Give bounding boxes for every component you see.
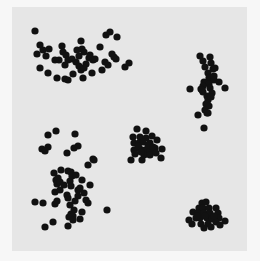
data-point xyxy=(64,222,71,229)
data-point xyxy=(69,216,76,223)
data-point xyxy=(36,64,43,71)
data-point xyxy=(71,130,78,137)
data-point xyxy=(200,224,207,231)
data-point xyxy=(206,53,213,60)
data-point xyxy=(78,176,85,183)
data-point xyxy=(31,27,38,34)
data-point xyxy=(153,136,160,143)
data-point xyxy=(42,52,49,59)
data-point xyxy=(63,149,70,156)
data-point xyxy=(106,28,113,35)
data-point xyxy=(142,127,149,134)
data-point xyxy=(91,55,98,62)
data-point xyxy=(207,93,214,100)
data-point xyxy=(44,69,51,76)
data-point xyxy=(53,197,60,204)
data-point xyxy=(125,59,132,66)
data-point xyxy=(89,155,96,162)
data-point xyxy=(127,156,134,163)
data-point xyxy=(133,125,140,132)
data-point xyxy=(44,131,51,138)
data-point xyxy=(78,208,85,215)
data-point xyxy=(53,74,60,81)
data-point xyxy=(31,198,38,205)
data-point xyxy=(158,145,165,152)
data-point xyxy=(84,199,91,206)
data-point xyxy=(77,37,84,44)
data-point xyxy=(96,43,103,50)
data-point xyxy=(137,148,144,155)
data-point xyxy=(33,50,40,57)
data-point xyxy=(216,221,223,228)
data-point xyxy=(71,197,78,204)
data-point xyxy=(113,33,120,40)
data-point xyxy=(129,133,136,140)
data-point xyxy=(98,66,105,73)
data-point xyxy=(103,206,110,213)
data-point xyxy=(67,182,74,189)
data-point xyxy=(138,156,145,163)
data-point xyxy=(215,78,222,85)
data-point xyxy=(186,85,193,92)
data-point xyxy=(41,223,48,230)
data-point xyxy=(210,212,217,219)
data-point xyxy=(221,84,228,91)
data-point xyxy=(56,186,63,193)
data-point xyxy=(193,212,200,219)
data-point xyxy=(45,45,52,52)
data-point xyxy=(88,69,95,76)
data-point xyxy=(86,181,93,188)
data-point xyxy=(200,124,207,131)
data-point xyxy=(101,58,108,65)
data-point xyxy=(79,74,86,81)
data-point xyxy=(41,147,48,154)
data-point xyxy=(76,215,83,222)
data-point xyxy=(152,149,159,156)
data-point xyxy=(203,109,210,116)
data-point xyxy=(112,55,119,62)
data-point xyxy=(70,144,77,151)
data-point xyxy=(210,72,217,79)
data-point xyxy=(64,76,71,83)
data-point xyxy=(211,64,218,71)
data-point xyxy=(49,218,56,225)
data-point xyxy=(69,70,76,77)
data-point xyxy=(84,161,91,168)
data-point xyxy=(58,42,65,49)
data-point xyxy=(52,127,59,134)
data-point xyxy=(201,212,208,219)
data-point xyxy=(39,199,46,206)
data-point xyxy=(64,194,71,201)
data-point xyxy=(194,111,201,118)
data-point xyxy=(51,56,58,63)
data-point xyxy=(188,220,195,227)
data-point xyxy=(207,223,214,230)
scatter-chart xyxy=(0,0,260,261)
data-point xyxy=(57,166,64,173)
data-point xyxy=(75,52,82,59)
data-point xyxy=(72,171,79,178)
data-point xyxy=(198,86,205,93)
